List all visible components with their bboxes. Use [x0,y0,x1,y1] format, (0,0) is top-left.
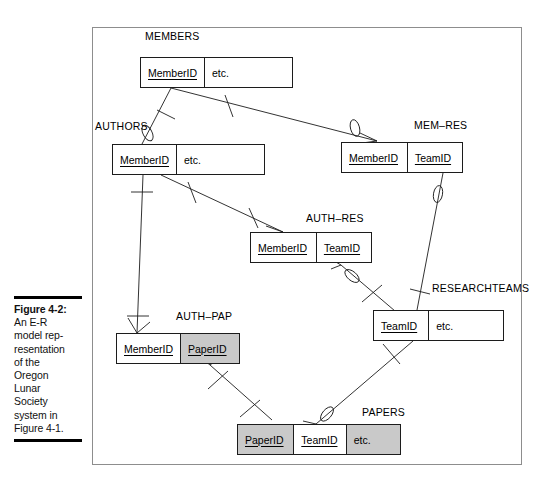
caption-line-8: Figure 4-1. [14,422,64,434]
attribute-text: TeamID [324,242,360,254]
entity-box-mem-res[interactable]: MemberID TeamID [341,142,463,173]
attribute-cell-papers-etc[interactable]: etc. [346,425,400,454]
attribute-text: etc. [212,67,229,79]
caption-line-0: An E-R [14,316,47,328]
figure-page: Figure 4-2: An E-R model rep- resentatio… [0,0,545,486]
attribute-cell-authpap-paperid[interactable]: PaperID [180,334,239,363]
attribute-text: TeamID [301,434,337,446]
attribute-cell-members-memberid[interactable]: MemberID [141,58,204,87]
entity-label-researchteams: RESEARCHTEAMS [432,282,529,294]
attribute-text: MemberID [124,343,173,355]
attribute-cell-members-etc[interactable]: etc. [204,58,292,87]
attribute-text: etc. [184,154,201,166]
attribute-cell-authres-teamid[interactable]: TeamID [316,233,371,262]
attribute-cell-authors-memberid[interactable]: MemberID [113,145,176,174]
attribute-text: MemberID [258,242,307,254]
entity-label-papers: PAPERS [362,406,405,418]
entity-label-mem-res: MEM–RES [414,119,467,131]
attribute-text: TeamID [415,152,451,164]
entity-box-researchteams[interactable]: TeamID etc. [373,310,504,341]
figure-caption-text: Figure 4-2: An E-R model rep- resentatio… [14,299,88,439]
figure-caption-block: Figure 4-2: An E-R model rep- resentatio… [14,296,88,442]
attribute-cell-memres-memberid[interactable]: MemberID [342,143,407,172]
attribute-text: etc. [436,320,453,332]
entity-box-authors[interactable]: MemberID etc. [112,144,265,175]
attribute-text: etc. [354,434,371,446]
caption-line-1: model rep- [14,329,63,341]
attribute-text: MemberID [349,152,398,164]
attribute-cell-papers-paperid[interactable]: PaperID [238,425,293,454]
attribute-cell-memres-teamid[interactable]: TeamID [407,143,462,172]
entity-box-members[interactable]: MemberID etc. [140,57,293,88]
caption-rule-bottom [14,439,82,442]
entity-label-members: MEMBERS [145,30,200,42]
entity-label-authors: AUTHORS [95,120,148,132]
entity-label-auth-res: AUTH–RES [306,212,364,224]
attribute-cell-authors-etc[interactable]: etc. [176,145,264,174]
caption-line-7: system in [14,409,57,421]
attribute-text: TeamID [381,320,417,332]
entity-label-auth-pap: AUTH–PAP [176,310,232,322]
attribute-cell-researchteams-etc[interactable]: etc. [428,311,503,340]
attribute-text: PaperID [188,343,227,355]
caption-line-6: Society [14,395,48,407]
attribute-text: MemberID [148,67,197,79]
attribute-cell-authres-memberid[interactable]: MemberID [251,233,316,262]
caption-line-2: resentation [14,343,65,355]
entity-box-auth-res[interactable]: MemberID TeamID [250,232,372,263]
attribute-text: PaperID [245,434,284,446]
caption-line-5: Lunar [14,382,40,394]
attribute-cell-papers-teamid[interactable]: TeamID [293,425,345,454]
caption-line-4: Oregon [14,369,48,381]
attribute-cell-researchteams-teamid[interactable]: TeamID [374,311,428,340]
caption-line-3: of the [14,356,40,368]
attribute-text: MemberID [120,154,169,166]
entity-box-papers[interactable]: PaperID TeamID etc. [237,424,401,455]
attribute-cell-authpap-memberid[interactable]: MemberID [117,334,180,363]
entity-box-auth-pap[interactable]: MemberID PaperID [116,333,240,364]
figure-number-label: Figure 4-2: [14,303,67,315]
